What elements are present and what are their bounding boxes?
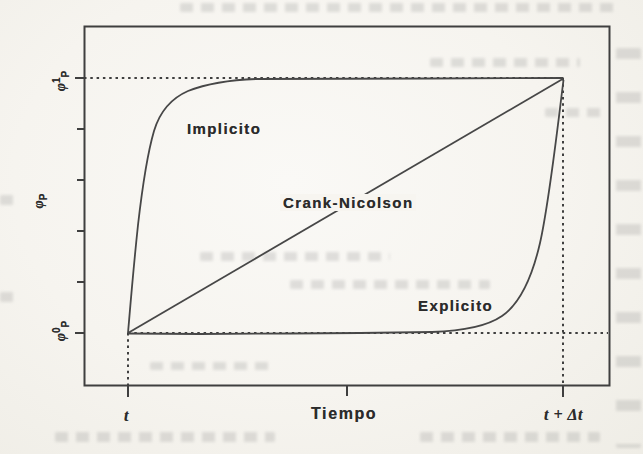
x-axis-title: Tiempo — [311, 405, 377, 423]
phi-symbol: φ — [53, 83, 68, 91]
phi-superscript: 0 — [51, 327, 62, 333]
x-tick-label-t-plus-dt: t + Δt — [544, 406, 583, 424]
phi-subscript: P — [60, 321, 71, 328]
implicit-curve-label: Implicito — [187, 120, 261, 137]
phi-subscript: P — [38, 194, 49, 201]
phi-superscript: 1 — [51, 77, 62, 83]
phi-subscript: P — [60, 71, 71, 78]
y-ref-label-phi1: φ1P — [51, 71, 71, 91]
explicit-curve-label: Explicito — [418, 297, 493, 314]
x-tick-label-t: t — [124, 407, 129, 425]
crank-nicolson-curve-label: Crank-Nicolson — [280, 194, 416, 211]
y-axis-title-phi: φP — [31, 194, 49, 209]
phi-symbol: φ — [31, 200, 46, 208]
y-ref-label-phi0: φ0P — [51, 321, 71, 341]
scanned-figure-page: Implicito Crank-Nicolson Explicito t Tie… — [0, 0, 643, 454]
scheme-comparison-plot — [0, 0, 643, 454]
phi-symbol: φ — [53, 333, 68, 341]
